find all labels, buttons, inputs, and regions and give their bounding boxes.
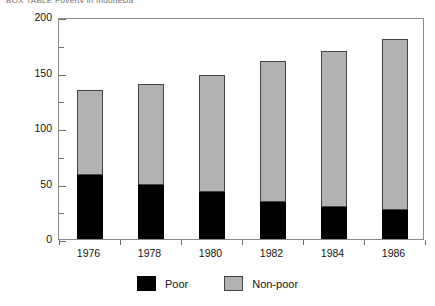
x-tick-2	[181, 240, 182, 245]
x-tick-5	[364, 240, 365, 245]
y-tick-150	[59, 75, 66, 76]
figure: BOX TABLE Poverty in Indonesia Number of…	[0, 0, 435, 306]
bar-segment-1986-non-poor	[382, 39, 408, 210]
bar-segment-1982-poor	[260, 202, 286, 239]
bar-segment-1984-non-poor	[321, 51, 347, 206]
bar-segment-1978-non-poor	[138, 84, 164, 185]
x-tick-1	[120, 240, 121, 245]
bar-segment-1976-non-poor	[77, 90, 103, 174]
bar-1984	[321, 17, 347, 239]
bar-1982	[260, 17, 286, 239]
legend-label: Non-poor	[252, 278, 298, 290]
legend-swatch-icon-poor	[137, 276, 156, 291]
legend-item-non-poor[interactable]: Non-poor	[224, 276, 298, 291]
x-tick-label-1984: 1984	[303, 247, 363, 259]
bar-1980	[199, 17, 225, 239]
bar-segment-1976-poor	[77, 175, 103, 239]
x-tick-label-1982: 1982	[242, 247, 302, 259]
legend-item-poor[interactable]: Poor	[137, 276, 188, 291]
y-tick-label-150: 150	[12, 67, 52, 79]
x-tick-label-1986: 1986	[364, 247, 424, 259]
y-minor-tick-175	[59, 47, 64, 48]
y-tick-label-50: 50	[12, 178, 52, 190]
y-tick-50	[59, 186, 66, 187]
y-tick-100	[59, 130, 66, 131]
bar-segment-1986-poor	[382, 210, 408, 239]
bar-1978	[138, 17, 164, 239]
bar-segment-1980-poor	[199, 192, 225, 239]
x-tick-0	[59, 240, 60, 245]
y-tick-label-0: 0	[12, 233, 52, 245]
x-tick-4	[303, 240, 304, 245]
y-tick-label-100: 100	[12, 122, 52, 134]
y-tick-200	[59, 19, 66, 20]
legend-label: Poor	[165, 278, 188, 290]
clipped-header-text: BOX TABLE Poverty in Indonesia	[6, 0, 133, 3]
y-tick-0	[59, 241, 66, 242]
legend-swatch-icon-non-poor	[224, 276, 243, 291]
chart-legend: PoorNon-poor	[0, 276, 435, 291]
x-tick-label-1978: 1978	[120, 247, 180, 259]
bar-1986	[382, 17, 408, 239]
x-tick-label-1980: 1980	[181, 247, 241, 259]
bar-1976	[77, 17, 103, 239]
y-minor-tick-25	[59, 213, 64, 214]
y-minor-tick-75	[59, 158, 64, 159]
x-tick-label-1976: 1976	[59, 247, 119, 259]
plot-area	[58, 18, 424, 240]
y-tick-label-200: 200	[12, 11, 52, 23]
x-tick-3	[242, 240, 243, 245]
bar-segment-1984-poor	[321, 207, 347, 239]
bar-segment-1978-poor	[138, 185, 164, 239]
y-minor-tick-125	[59, 102, 64, 103]
bar-segment-1982-non-poor	[260, 61, 286, 202]
bar-segment-1980-non-poor	[199, 75, 225, 193]
x-tick-6	[425, 240, 426, 245]
